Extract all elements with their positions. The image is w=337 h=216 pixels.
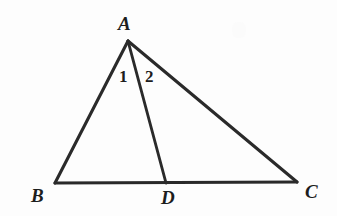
vertex-label-a: A bbox=[118, 14, 131, 33]
angle-label-1: 1 bbox=[119, 68, 128, 85]
vertex-label-b: B bbox=[31, 186, 44, 205]
geometry-figure: A B C D 1 2 bbox=[0, 0, 337, 216]
vertex-label-d: D bbox=[161, 188, 175, 207]
segment-ad-cevian bbox=[128, 41, 166, 183]
segment-ac bbox=[128, 41, 297, 182]
scan-artifact bbox=[232, 22, 246, 38]
segment-ab bbox=[55, 41, 128, 183]
vertex-label-c: C bbox=[305, 182, 318, 201]
segment-bc bbox=[55, 182, 297, 183]
angle-label-2: 2 bbox=[145, 68, 154, 85]
triangle-drawing bbox=[0, 0, 337, 216]
